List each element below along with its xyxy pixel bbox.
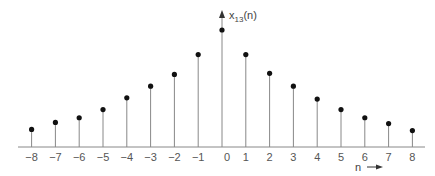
stem-dot: [29, 127, 34, 132]
stem-dot: [362, 115, 367, 120]
x-arrow-icon: [376, 165, 383, 170]
tick-label: 0: [224, 151, 230, 163]
stem-dot: [267, 71, 272, 76]
stem-dot: [219, 27, 224, 32]
tick-label: −2: [168, 151, 181, 163]
stem-dot: [315, 96, 320, 101]
stem-dot: [100, 107, 105, 112]
tick-label: 5: [338, 151, 344, 163]
stem-dot: [410, 128, 415, 133]
tick-label: −5: [97, 151, 110, 163]
stem-dot: [243, 52, 248, 57]
tick-label: 3: [290, 151, 296, 163]
x-axis-label: n: [355, 161, 361, 173]
y-axis-label: x13(n): [229, 9, 257, 24]
tick-label: −4: [121, 151, 134, 163]
tick-label: 7: [386, 151, 392, 163]
tick-label: −3: [144, 151, 157, 163]
stem-dot: [77, 115, 82, 120]
tick-label: −8: [25, 151, 38, 163]
stem-dot: [172, 72, 177, 77]
stem-dot: [291, 84, 296, 89]
tick-label: 1: [243, 151, 249, 163]
stem-dot: [338, 107, 343, 112]
stem-dot: [148, 84, 153, 89]
tick-label: 8: [409, 151, 415, 163]
stem-dot: [124, 95, 129, 100]
stem-dot: [196, 52, 201, 57]
tick-label: 4: [314, 151, 320, 163]
stem-plot: x13(n) −8−7−6−5−4−3−2−1012345678 n: [0, 0, 435, 176]
tick-label: 6: [362, 151, 368, 163]
stem-dot: [53, 120, 58, 125]
tick-label: −7: [49, 151, 62, 163]
tick-label: −1: [192, 151, 205, 163]
stem-dot: [386, 121, 391, 126]
y-axis-arrow-icon: [219, 10, 225, 18]
tick-label: −6: [73, 151, 86, 163]
tick-label: 2: [267, 151, 273, 163]
